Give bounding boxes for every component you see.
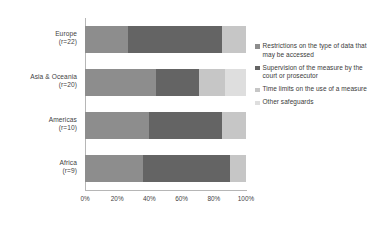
category-responses: (r=9) (0, 167, 77, 175)
x-tick-0: 0% (80, 194, 89, 203)
segment-time-limits (230, 155, 246, 182)
bar-americas (85, 112, 246, 139)
legend-item-label: Other safeguards (263, 98, 314, 107)
y-axis-label-asia-oceania: Asia & Oceania (r=20) (0, 73, 77, 90)
x-axis-tick-labels: 0% 20% 40% 60% 80% 100% (85, 194, 246, 206)
segment-supervision-court-prosecutor (128, 26, 221, 53)
legend-item-supervision-court-prosecutor[interactable]: Supervision of the measure by the court … (255, 64, 369, 81)
segment-restrictions-data-type (85, 112, 149, 139)
legend-item-label: Time limits on the use of a measure (263, 85, 367, 94)
x-axis-line (85, 190, 247, 191)
segment-time-limits (222, 26, 246, 53)
y-axis-category-labels: Europe (r=22) Asia & Oceania (r=20) Amer… (0, 18, 82, 190)
legend-item-time-limits[interactable]: Time limits on the use of a measure (255, 85, 369, 94)
y-axis-label-africa: Africa (r=9) (0, 159, 77, 176)
legend-swatch-icon (255, 88, 260, 93)
plot-area (85, 18, 246, 190)
x-tick-2: 40% (143, 194, 156, 203)
legend-swatch-icon (255, 101, 260, 106)
segment-restrictions-data-type (85, 69, 156, 96)
category-name: Africa (0, 159, 77, 167)
x-tick-3: 60% (175, 194, 188, 203)
stacked-bar-chart: Europe (r=22) Asia & Oceania (r=20) Amer… (0, 0, 369, 242)
x-tick-4: 80% (207, 194, 220, 203)
segment-supervision-court-prosecutor (149, 112, 221, 139)
x-tick-5: 100% (238, 194, 254, 203)
segment-other-safeguards (225, 69, 246, 96)
segment-time-limits (222, 112, 246, 139)
y-axis-label-europe: Europe (r=22) (0, 30, 77, 47)
segment-time-limits (199, 69, 225, 96)
x-tick-1: 20% (111, 194, 124, 203)
category-responses: (r=22) (0, 38, 77, 46)
legend-item-restrictions-data-type[interactable]: Restrictions on the type of data that ma… (255, 42, 369, 59)
category-name: Europe (0, 30, 77, 38)
segment-restrictions-data-type (85, 26, 128, 53)
bar-africa (85, 155, 246, 182)
segment-restrictions-data-type (85, 155, 143, 182)
bar-europe (85, 26, 246, 53)
category-responses: (r=20) (0, 81, 77, 89)
legend-swatch-icon (255, 66, 260, 71)
category-name: Americas (0, 116, 77, 124)
legend-item-label: Restrictions on the type of data that ma… (263, 42, 369, 59)
bar-asia-oceania (85, 69, 246, 96)
legend: Restrictions on the type of data that ma… (255, 42, 369, 112)
y-axis-label-americas: Americas (r=10) (0, 116, 77, 133)
legend-item-other-safeguards[interactable]: Other safeguards (255, 98, 369, 107)
legend-item-label: Supervision of the measure by the court … (263, 64, 369, 81)
category-name: Asia & Oceania (0, 73, 77, 81)
legend-swatch-icon (255, 44, 260, 49)
segment-supervision-court-prosecutor (143, 155, 230, 182)
category-responses: (r=10) (0, 124, 77, 132)
segment-supervision-court-prosecutor (156, 69, 199, 96)
